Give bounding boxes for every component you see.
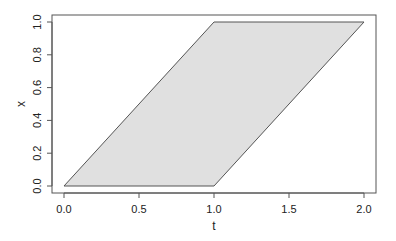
y-tick-label: 0.8 [31, 47, 43, 62]
y-tick-label: 0.2 [31, 146, 43, 161]
y-tick-label: 0.4 [31, 113, 43, 128]
chart: 0.0 0.5 1.0 1.5 2.0 t 0.0 0.2 0.4 0.6 0.… [0, 0, 396, 241]
x-tick-label: 1.5 [281, 203, 296, 215]
y-tick-label: 0.0 [31, 178, 43, 193]
x-tick-label: 0.5 [131, 203, 146, 215]
x-tick-label: 2.0 [356, 203, 371, 215]
x-axis-label: t [212, 219, 216, 233]
x-tick-label: 0.0 [56, 203, 71, 215]
parallelogram-region [64, 22, 364, 186]
x-tick-label: 1.0 [206, 203, 221, 215]
x-axis: 0.0 0.5 1.0 1.5 2.0 t [56, 193, 371, 233]
y-tick-label: 1.0 [31, 14, 43, 29]
y-axis: 0.0 0.2 0.4 0.6 0.8 1.0 x [14, 14, 52, 193]
y-axis-label: x [14, 101, 28, 107]
y-tick-label: 0.6 [31, 80, 43, 95]
